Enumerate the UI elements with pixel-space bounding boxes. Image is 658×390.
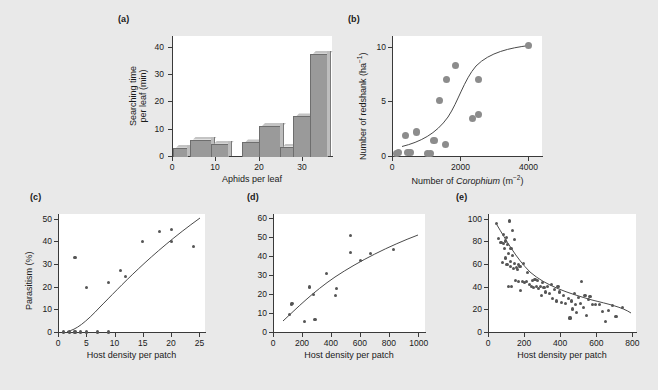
panel-b-y-axis-title: Number of redshank (ha−1) — [356, 30, 368, 160]
panel-a-bar-front — [259, 126, 281, 157]
panel-b-x-axis-title-prefix: Number of — [412, 176, 457, 186]
panel-c-y-label-50: 50 — [34, 214, 52, 224]
panel-d-y-tick-50 — [269, 237, 273, 238]
panel-a-x-label-30: 30 — [292, 162, 312, 172]
panel-d-x-label-0: 0 — [263, 338, 283, 348]
panel-c-y-tick-50 — [54, 219, 58, 220]
data-point — [550, 283, 553, 286]
panel-e-x-tick-200 — [524, 333, 525, 337]
panel-d: (d) 0 10 20 30 40 50 60 0 200 400 600 80… — [225, 192, 440, 387]
panel-e-y-label-40: 40 — [460, 282, 482, 292]
panel-c-y-label-20: 20 — [34, 282, 52, 292]
panel-c-x-label-0: 0 — [48, 338, 68, 348]
panel-b-plot-area — [392, 36, 542, 156]
panel-c-x-tick-10 — [115, 333, 116, 337]
panel-e-x-label-200: 200 — [513, 338, 535, 348]
data-point — [392, 248, 395, 251]
panel-b-y-tick-10 — [388, 47, 392, 48]
panel-a-bar-front — [293, 116, 311, 157]
panel-a-y-axis — [172, 36, 173, 157]
data-point — [369, 252, 372, 255]
panel-d-x-label-800: 800 — [378, 338, 400, 348]
panel-e-x-label-400: 400 — [549, 338, 571, 348]
data-point — [407, 149, 414, 156]
data-point — [604, 320, 607, 323]
panel-d-y-tick-60 — [269, 218, 273, 219]
panel-d-x-tick-600 — [360, 333, 361, 337]
panel-d-y-tick-40 — [269, 256, 273, 257]
panel-e-x-tick-400 — [560, 333, 561, 337]
panel-c-x-label-10: 10 — [105, 338, 125, 348]
panel-d-y-tick-20 — [269, 294, 273, 295]
panel-e-x-axis-title: Host density per patch — [488, 350, 636, 360]
panel-e-y-tick-60 — [484, 264, 488, 265]
data-point — [570, 299, 573, 302]
panel-c-x-label-20: 20 — [161, 338, 181, 348]
data-point — [594, 303, 597, 306]
panel-c-y-tick-10 — [54, 309, 58, 310]
panel-c-x-tick-15 — [143, 333, 144, 337]
data-point — [452, 62, 459, 69]
panel-d-y-label-50: 50 — [249, 232, 267, 242]
panel-d-y-label-20: 20 — [249, 289, 267, 299]
data-point — [571, 307, 574, 310]
panel-d-y-tick-30 — [269, 275, 273, 276]
panel-a-y-tick-40 — [168, 47, 172, 48]
panel-b-y-axis-title-base: Number of redshank (ha — [358, 63, 368, 160]
data-point — [334, 294, 337, 297]
data-point — [510, 285, 513, 288]
panel-d-x-label-200: 200 — [291, 338, 313, 348]
data-point — [588, 295, 591, 298]
panel-c-y-axis-title: Parasitism (%) — [24, 210, 34, 310]
panel-d-label: (d) — [247, 192, 259, 202]
data-point — [402, 132, 409, 139]
data-point — [427, 150, 434, 157]
panel-c-x-axis-title: Host density per patch — [58, 350, 205, 360]
panel-c-plot-area — [58, 214, 205, 332]
data-point — [555, 299, 558, 302]
panel-b-x-axis-title-unit: (m — [500, 176, 513, 186]
data-point — [540, 294, 543, 297]
data-point — [583, 294, 586, 297]
panel-b-y-label-5: 5 — [368, 96, 386, 106]
data-point — [430, 137, 437, 144]
data-point — [502, 233, 505, 236]
panel-e-label: (e) — [456, 192, 467, 202]
panel-c-y-label-30: 30 — [34, 259, 52, 269]
data-point — [303, 320, 306, 323]
data-point — [509, 260, 512, 263]
panel-d-y-axis — [273, 214, 274, 333]
panel-d-y-tick-10 — [269, 313, 273, 314]
data-point — [548, 292, 551, 295]
data-point — [516, 268, 519, 271]
panel-e-x-tick-600 — [596, 333, 597, 337]
panel-c-x-tick-5 — [86, 333, 87, 337]
panel-c-x-label-5: 5 — [76, 338, 96, 348]
panel-b-x-tick-4000 — [528, 157, 529, 161]
panel-b-x-axis — [392, 156, 543, 157]
panel-b-x-label-0: 0 — [382, 162, 402, 172]
panel-a-y-tick-30 — [168, 74, 172, 75]
panel-e-y-tick-100 — [484, 219, 488, 220]
panel-e-plot-area — [488, 214, 636, 332]
panel-a-x-tick-0 — [172, 157, 173, 161]
data-point — [607, 309, 610, 312]
panel-b-x-tick-2000 — [460, 157, 461, 161]
data-point — [107, 330, 110, 333]
panel-c-x-tick-20 — [171, 333, 172, 337]
panel-d-y-label-60: 60 — [249, 213, 267, 223]
panel-d-y-label-10: 10 — [249, 308, 267, 318]
panel-b-label: (b) — [348, 14, 360, 24]
panel-e-y-label-0: 0 — [460, 327, 482, 337]
panel-a-x-tick-30 — [302, 157, 303, 161]
panel-a-x-axis-title: Aphids per leaf — [172, 174, 332, 184]
panel-a-bar-front — [242, 142, 260, 157]
panel-d-x-label-600: 600 — [349, 338, 371, 348]
panel-d-x-tick-1000 — [418, 333, 419, 337]
panel-c-x-tick-0 — [58, 333, 59, 337]
data-point — [85, 286, 88, 289]
data-point — [511, 229, 514, 232]
panel-e-y-axis — [488, 214, 489, 333]
panel-a-y-tick-10 — [168, 129, 172, 130]
panel-e-x-axis — [488, 332, 637, 333]
